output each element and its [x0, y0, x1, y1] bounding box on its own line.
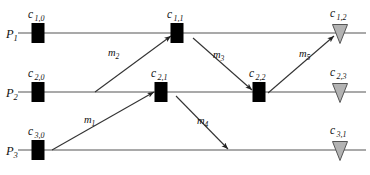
event-c-2-3-label-sub: 2,3 [337, 72, 347, 81]
message-m1-label-sub: 1 [91, 119, 95, 128]
process-label-p3: P3 [5, 144, 18, 160]
message-m2-label: m2 [108, 47, 119, 61]
event-c-2-1-label: c2,1 [151, 67, 168, 82]
event-c-1-1-label: c1,1 [167, 8, 184, 23]
event-c-3-1-label-main: c [330, 124, 335, 136]
process-label-p2-sub: 2 [13, 92, 18, 102]
event-c-2-1-label-main: c [151, 67, 156, 79]
event-c-1-2-label-main: c [330, 7, 335, 19]
process-label-p2: P2 [5, 86, 18, 102]
event-c-1-0-label-main: c [28, 8, 33, 20]
process-label-p1: P1 [5, 27, 18, 43]
diagram-canvas: P1P2P3m1m2m3m4m5c1,0c1,1c1,2c2,0c2,1c2,2… [0, 0, 370, 175]
process-label-p1-sub: 1 [13, 33, 17, 43]
message-m5-arrow [268, 36, 334, 93]
message-m1-label: m1 [84, 114, 95, 128]
event-c-1-2-marker [333, 25, 348, 44]
message-m4-label-sub: 4 [204, 120, 208, 129]
event-c-3-0-label-sub: 3,0 [34, 131, 45, 140]
event-c-2-2-label-main: c [249, 67, 254, 79]
event-c-2-0-label-main: c [28, 67, 33, 79]
event-c-3-1-label: c3,1 [330, 124, 347, 139]
event-c-1-1-marker [171, 23, 184, 43]
message-m3-label-sub: 3 [219, 54, 224, 63]
event-c-2-0-label-sub: 2,0 [35, 73, 45, 82]
message-m4-label: m4 [197, 115, 208, 129]
message-m2-label-sub: 2 [115, 52, 119, 61]
event-c-3-0-marker [32, 140, 45, 160]
event-c-2-0-label: c2,0 [28, 67, 45, 82]
process-label-p3-sub: 3 [12, 150, 17, 160]
event-c-2-3-label-main: c [330, 66, 335, 78]
event-c-1-2-label: c1,2 [330, 7, 347, 22]
event-c-3-1-marker [333, 142, 348, 161]
event-c-2-1-label-sub: 2,1 [158, 73, 168, 82]
message-m5-label: m5 [299, 48, 310, 62]
event-c-2-2-label: c2,2 [249, 67, 266, 82]
event-c-1-0-marker [32, 23, 45, 43]
message-m3-arrow [193, 38, 252, 90]
event-c-2-0-marker [32, 82, 45, 102]
space-time-diagram: P1P2P3m1m2m3m4m5c1,0c1,1c1,2c2,0c2,1c2,2… [0, 0, 370, 175]
event-c-2-2-label-sub: 2,2 [256, 73, 266, 82]
message-m5-label-sub: 5 [306, 53, 310, 62]
event-c-1-1-label-sub: 1,1 [174, 14, 184, 23]
event-c-3-0-label: c3,0 [28, 125, 45, 140]
event-c-1-1-label-main: c [167, 8, 172, 20]
event-c-1-2-label-sub: 1,2 [337, 13, 347, 22]
message-m1-arrow [52, 92, 154, 150]
event-c-3-0-label-main: c [28, 125, 33, 137]
event-c-1-0-label: c1,0 [28, 8, 45, 23]
event-c-2-2-marker [253, 82, 266, 102]
event-c-1-0-label-sub: 1,0 [35, 14, 45, 23]
event-c-2-1-marker [155, 82, 168, 102]
event-c-2-3-marker [333, 84, 348, 103]
message-arrows-layer [52, 36, 334, 150]
event-c-3-1-label-sub: 3,1 [336, 130, 347, 139]
process-axes-layer [18, 33, 366, 150]
event-c-2-3-label: c2,3 [330, 66, 347, 81]
